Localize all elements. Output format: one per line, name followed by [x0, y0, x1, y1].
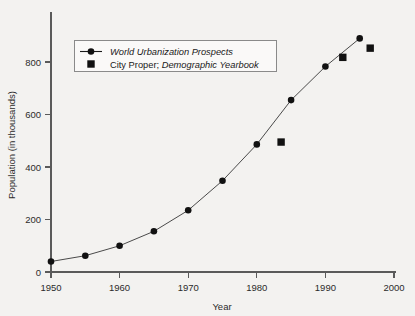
x-tick-label-1950: 1950 [40, 282, 61, 293]
data-point-marker [82, 252, 89, 259]
y-tick-label-400: 400 [25, 162, 41, 173]
x-tick-label-1960: 1960 [109, 282, 130, 293]
legend-label-italic-part: World Urbanization Prospects [110, 47, 233, 57]
data-point-marker [185, 207, 192, 214]
data-point-marker [367, 44, 374, 51]
y-tick-label-0: 0 [36, 267, 41, 278]
legend-label-city-proper-demographic-yearbook: City Proper; Demographic Yearbook [110, 60, 260, 70]
x-tick-label-2000: 2000 [383, 282, 404, 293]
population-line-chart: 0 200 400 600 800 1950 1960 1970 1980 19… [0, 0, 415, 316]
y-tick-label-200: 200 [25, 214, 41, 225]
y-axis-ticks: 0 200 400 600 800 [25, 57, 51, 278]
chart-legend: World Urbanization Prospects City Proper… [75, 41, 277, 72]
y-tick-label-800: 800 [25, 57, 41, 68]
data-point-marker [253, 141, 260, 148]
x-axis-title: Year [212, 301, 231, 312]
y-axis-title: Population (in thousands) [6, 91, 17, 199]
legend-label-italic-part: Demographic Yearbook [162, 60, 260, 70]
data-point-marker [339, 54, 346, 61]
legend-label-plain-part: City Proper; [110, 60, 162, 70]
data-point-marker [322, 63, 329, 70]
series-city-proper-demographic-yearbook [277, 44, 374, 145]
legend-circle-marker-icon [88, 48, 95, 55]
x-tick-label-1980: 1980 [246, 282, 267, 293]
data-point-marker [48, 258, 55, 265]
data-point-marker [151, 228, 158, 235]
data-point-marker [219, 177, 226, 184]
x-tick-label-1990: 1990 [315, 282, 336, 293]
chart-figure: 0 200 400 600 800 1950 1960 1970 1980 19… [0, 0, 415, 316]
x-tick-label-1970: 1970 [178, 282, 199, 293]
data-point-marker [356, 35, 363, 42]
data-point-marker [288, 97, 295, 104]
data-point-marker [116, 242, 123, 249]
y-tick-label-600: 600 [25, 109, 41, 120]
x-axis-ticks: 1950 1960 1970 1980 1990 2000 [40, 272, 404, 293]
legend-square-marker-icon [87, 60, 94, 67]
legend-label-world-urbanization-prospects: World Urbanization Prospects [110, 47, 233, 57]
data-point-marker [277, 138, 284, 145]
